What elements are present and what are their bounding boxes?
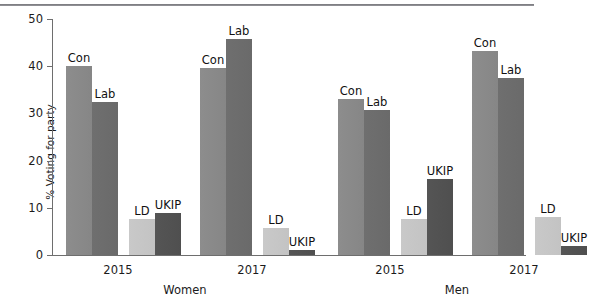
bar-women-2017-ukip (289, 250, 315, 255)
y-tick-label: 20 (28, 154, 43, 168)
bar-men-2015-con (338, 99, 364, 255)
x-axis-group-label: 2015 (350, 263, 430, 277)
bar-women-2015-ld (129, 219, 155, 255)
x-axis-group-label: 2015 (78, 263, 158, 277)
bar-value-label: UKIP (414, 164, 466, 178)
bar-value-label: UKIP (142, 198, 194, 212)
y-tick-label: 30 (28, 106, 43, 120)
y-tick-label: 40 (28, 59, 43, 73)
bar-value-label: UKIP (276, 235, 328, 249)
x-axis-group-label: 2017 (484, 263, 564, 277)
bar-value-label: Lab (213, 24, 265, 38)
y-tick-label: 10 (28, 201, 43, 215)
bar-men-2015-ld (401, 219, 427, 255)
y-tick-label: 50 (28, 12, 43, 26)
bar-value-label: UKIP (548, 231, 592, 245)
bar-men-2017-ukip (561, 246, 587, 255)
y-tick-mark (47, 208, 52, 209)
bar-men-2017-con (472, 51, 498, 255)
bar-value-label: Con (53, 51, 105, 65)
bar-women-2015-lab (92, 102, 118, 255)
bar-women-2017-lab (226, 39, 252, 255)
x-axis-line (52, 255, 526, 256)
bar-value-label: Lab (485, 63, 537, 77)
plot-area: 01020304050 ConLabLDUKIPConLabLDUKIPConL… (52, 19, 526, 255)
bar-value-label: LD (522, 202, 574, 216)
y-tick-label: 0 (36, 248, 43, 262)
bar-men-2015-lab (364, 110, 390, 255)
bar-value-label: LD (250, 213, 302, 227)
y-tick-mark (47, 161, 52, 162)
y-tick-mark (47, 66, 52, 67)
bar-value-label: Con (459, 36, 511, 50)
bar-value-label: Lab (79, 87, 131, 101)
top-divider-rule (0, 4, 534, 6)
bar-men-2015-ukip (427, 179, 453, 255)
bar-men-2017-lab (498, 78, 524, 255)
x-axis-group-label: 2017 (212, 263, 292, 277)
panel-label: Men (407, 283, 507, 297)
bar-women-2015-ukip (155, 213, 181, 255)
bar-women-2017-con (200, 68, 226, 255)
panel-label: Women (135, 283, 235, 297)
y-tick-mark (47, 19, 52, 20)
bar-value-label: Lab (351, 95, 403, 109)
y-tick-mark (47, 255, 52, 256)
y-tick-mark (47, 113, 52, 114)
